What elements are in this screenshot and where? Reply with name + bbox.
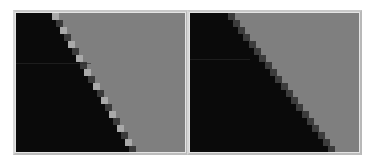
right-staircase-graphic (190, 13, 359, 152)
left-staircase-graphic (16, 13, 185, 152)
right-edge-image (190, 13, 359, 152)
right-image-panel (187, 10, 362, 155)
left-edge-image (16, 13, 185, 152)
left-image-panel (13, 10, 188, 155)
comparison-figure (0, 0, 374, 163)
